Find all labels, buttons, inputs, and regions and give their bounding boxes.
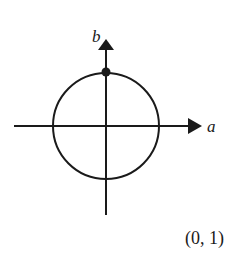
highlighted-point — [102, 68, 111, 77]
vertical-axis-label: b — [92, 27, 101, 46]
diagram-canvas: a b (0, 1) — [0, 0, 239, 261]
horizontal-axis-arrowhead-icon — [188, 118, 202, 134]
caption: (0, 1) — [185, 228, 224, 249]
horizontal-axis-label: a — [207, 117, 216, 136]
